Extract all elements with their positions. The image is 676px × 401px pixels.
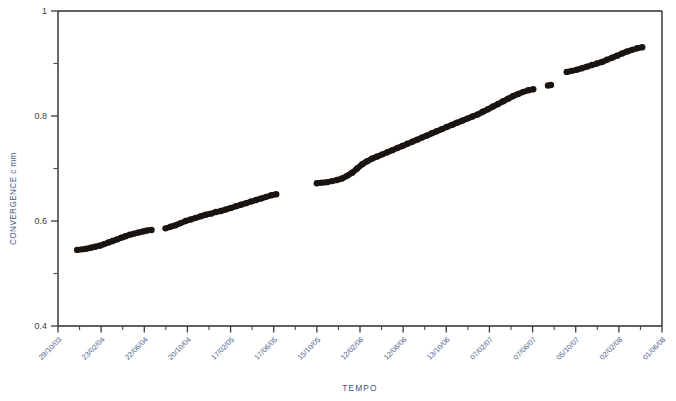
- data-point: [548, 82, 554, 88]
- data-point-fill: [146, 227, 152, 233]
- y-tick-label: 0.8: [34, 111, 47, 121]
- data-point-fill: [236, 203, 242, 209]
- data-point-fill: [518, 90, 524, 96]
- data-point-fill: [241, 201, 247, 207]
- data-point-fill: [175, 221, 181, 227]
- x-axis-title: TEMPO: [342, 383, 377, 393]
- data-point-fill: [397, 144, 403, 150]
- data-point-fill: [528, 87, 534, 93]
- chart-canvas: 0.40.60.81 29/10/0323/02/0422/06/0420/10…: [0, 0, 676, 401]
- data-point-fill: [576, 66, 582, 72]
- data-point-fill: [231, 204, 237, 210]
- data-point-fill: [597, 60, 603, 66]
- y-tick-label: 1: [42, 6, 47, 16]
- data-point-fill: [205, 211, 211, 217]
- data-point-fill: [180, 219, 186, 225]
- data-point-fill: [170, 223, 176, 229]
- data-point-fill: [377, 152, 383, 158]
- data-point-fill: [586, 63, 592, 69]
- data-point-fill: [513, 92, 519, 98]
- y-axis-title: CONVERGENCE c mm: [9, 152, 18, 245]
- data-point-fill: [266, 193, 272, 199]
- data-point-fill: [322, 180, 328, 186]
- data-point-fill: [190, 216, 196, 222]
- data-point-fill: [637, 45, 643, 51]
- data-point-fill: [571, 67, 577, 73]
- data-point-fill: [185, 217, 191, 223]
- data-point-fill: [607, 56, 613, 62]
- data-point-fill: [566, 68, 572, 74]
- data-point-fill: [246, 199, 252, 205]
- data-point-fill: [195, 214, 201, 220]
- convergence-chart: 0.40.60.81 29/10/0323/02/0422/06/0420/10…: [0, 0, 676, 401]
- data-point-fill: [332, 178, 338, 184]
- data-point-fill: [261, 195, 267, 201]
- data-point-fill: [256, 196, 262, 202]
- data-point-fill: [602, 58, 608, 64]
- data-point-fill: [612, 54, 618, 60]
- data-point-fill: [581, 65, 587, 71]
- y-tick-label: 0.6: [34, 216, 47, 226]
- data-point-fill: [165, 225, 171, 231]
- data-point-fill: [372, 155, 378, 161]
- data-point-fill: [622, 50, 628, 56]
- data-point-fill: [592, 61, 598, 67]
- data-point-fill: [327, 179, 333, 185]
- data-point-fill: [226, 206, 232, 212]
- data-point-fill: [382, 150, 388, 156]
- data-point-fill: [210, 210, 216, 216]
- data-point-fill: [251, 198, 257, 204]
- data-point-fill: [271, 192, 277, 198]
- data-point-fill: [392, 146, 398, 152]
- data-point-fill: [215, 209, 221, 215]
- data-point-fill: [200, 213, 206, 219]
- data-point-fill: [387, 148, 393, 154]
- data-point-fill: [523, 88, 529, 94]
- data-point-fill: [632, 46, 638, 52]
- data-point-fill: [220, 207, 226, 213]
- data-point-fill: [627, 48, 633, 54]
- y-tick-label: 0.4: [34, 321, 47, 331]
- data-point-fill: [617, 52, 623, 58]
- data-point-fill: [316, 180, 322, 186]
